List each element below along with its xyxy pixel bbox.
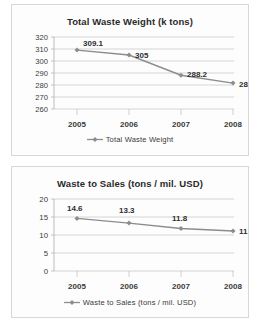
x-tick-labels: 2005 2006 2007 2008 [68,120,242,129]
legend-label: Waste to Sales (tons / mil. USD) [83,298,196,307]
y-tick-label: 20 [39,195,48,204]
y-tick-label: 300 [35,57,48,66]
x-tick-label: 2005 [68,120,86,129]
x-tick-label: 2008 [224,282,242,291]
x-tick-label: 2006 [120,282,138,291]
y-tick-labels: 20 15 10 5 0 [39,195,48,276]
y-tick-labels: 320 310 300 290 280 270 260 [35,33,48,114]
plot-area: 20 15 10 5 0 2005 2006 2007 2008 [12,193,248,293]
y-tick-label: 5 [44,249,49,258]
y-tick-label: 290 [35,69,48,78]
data-point-marker [127,53,132,58]
y-tick-label: 15 [39,213,48,222]
data-label: 14.6 [67,204,83,213]
data-label: 11.1 [239,227,248,236]
x-tick-labels: 2005 2006 2007 2008 [68,282,242,291]
x-tick-label: 2005 [68,282,86,291]
y-tick-label: 310 [35,45,48,54]
data-label: 305 [135,51,149,60]
chart-title: Waste to Sales (tons / mil. USD) [12,178,248,189]
data-label: 309.1 [83,39,104,48]
data-point-marker [179,226,184,231]
line-chart-svg: 20 15 10 5 0 2005 2006 2007 2008 [12,193,248,293]
data-point-marker [127,221,132,226]
chart-card-total-waste-weight: Total Waste Weight (k tons) [11,4,249,156]
y-tick-label: 260 [35,105,48,114]
x-tick-label: 2008 [224,120,242,129]
x-tick-label: 2007 [172,120,190,129]
y-tick-label: 280 [35,81,48,90]
data-line [77,218,233,231]
chart-legend: Waste to Sales (tons / mil. USD) [12,298,248,307]
y-tick-label: 0 [44,267,49,276]
x-tick-label: 2006 [120,120,138,129]
data-line [77,50,233,83]
data-label: 11.8 [172,214,188,223]
legend-marker-icon [87,135,103,144]
chart-legend: Total Waste Weight [12,135,248,144]
data-markers [75,216,236,234]
data-point-marker [231,229,236,234]
plot-area: 320 310 300 290 280 270 260 2005 2006 20… [12,31,248,131]
y-tick-label: 270 [35,93,48,102]
data-label: 281.6 [239,80,248,89]
chart-card-waste-to-sales: Waste to Sales (tons / mil. USD) [11,166,249,318]
y-tick-label: 320 [35,33,48,42]
x-axis-ticks [77,271,233,277]
y-tick-label: 10 [39,231,48,240]
x-tick-label: 2007 [172,282,190,291]
data-point-marker [179,73,184,78]
data-label: 13.3 [119,206,135,215]
legend-marker-icon [64,298,80,307]
data-label: 288.2 [187,70,208,79]
chart-title: Total Waste Weight (k tons) [12,16,248,27]
data-point-marker [75,48,80,53]
line-chart-svg: 320 310 300 290 280 270 260 2005 2006 20… [12,31,248,131]
x-axis-ticks [77,109,233,115]
chart-page: Total Waste Weight (k tons) [0,0,265,324]
legend-label: Total Waste Weight [106,135,174,144]
